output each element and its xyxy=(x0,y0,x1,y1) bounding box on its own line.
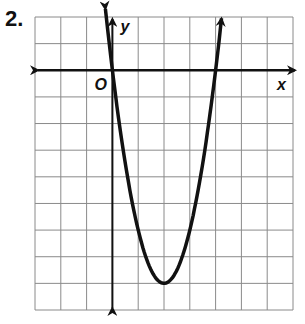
parabola-curve xyxy=(105,9,221,283)
grid-lines xyxy=(35,17,293,310)
x-axis-label: x xyxy=(276,76,287,93)
coordinate-graph: y x O xyxy=(0,0,305,324)
y-axis-label: y xyxy=(119,18,130,35)
origin-label: O xyxy=(94,76,107,93)
